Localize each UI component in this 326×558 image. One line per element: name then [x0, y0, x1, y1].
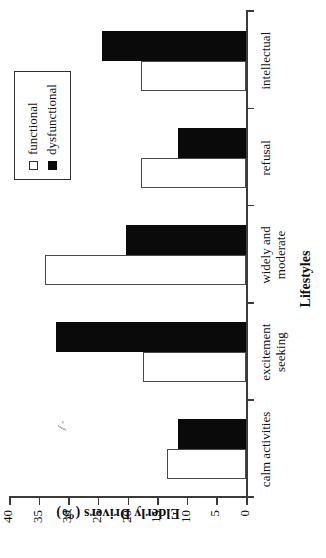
y-tick: 5: [216, 497, 218, 505]
y-tick: 40: [9, 497, 11, 505]
y-tick: 25: [98, 497, 100, 505]
rotated-figure: 0510152025303540 calm activitiesexciteme…: [0, 0, 326, 558]
y-tick: 15: [157, 497, 159, 505]
y-tick: 35: [39, 497, 41, 505]
open-square-swatch-icon: [29, 161, 38, 170]
y-tick: 0: [246, 497, 248, 505]
legend-label-dysfunctional: dysfunctional: [44, 84, 60, 155]
x-tick: [246, 302, 254, 304]
bar-dysfunctional-intellectual: [102, 31, 246, 61]
x-tick: [246, 205, 254, 207]
bar-functional-calm-activities: [167, 449, 246, 479]
category-label-line: intellectual: [258, 1, 273, 121]
x-tick: [246, 10, 254, 12]
x-tick: [246, 496, 254, 498]
y-tick-label: 40: [0, 510, 16, 540]
legend-item-functional: functional: [25, 84, 41, 170]
x-axis-line: [246, 12, 248, 498]
bar-functional-excitement-seeking: [143, 352, 246, 382]
bar-functional-intellectual: [141, 61, 246, 91]
bar-functional-refusal: [141, 158, 246, 188]
legend-item-dysfunctional: dysfunctional: [44, 84, 60, 170]
chart-legend: functional dysfunctional: [14, 71, 71, 180]
bar-functional-widely-and-moderate: [45, 255, 246, 285]
scan-artifact-speck: [58, 420, 66, 436]
x-axis-title: Lifestyles: [298, 0, 314, 558]
y-tick: 20: [128, 497, 130, 505]
x-tick: [246, 399, 254, 401]
y-axis-title: Elderly Drivers (%): [18, 505, 218, 521]
y-tick-label: 0: [237, 510, 253, 540]
x-tick: [246, 108, 254, 110]
y-tick: 30: [68, 497, 70, 505]
category-label-intellectual: intellectual: [258, 1, 273, 121]
legend-label-functional: functional: [25, 102, 41, 155]
category-label-line: moderate: [273, 195, 288, 315]
y-tick: 10: [187, 497, 189, 505]
filled-square-swatch-icon: [48, 161, 57, 170]
bar-dysfunctional-widely-and-moderate: [126, 225, 246, 255]
bar-dysfunctional-excitement-seeking: [56, 322, 246, 352]
bar-dysfunctional-refusal: [178, 128, 246, 158]
bar-dysfunctional-calm-activities: [178, 419, 246, 449]
chart-plot-area: 0510152025303540 calm activitiesexciteme…: [0, 0, 326, 558]
